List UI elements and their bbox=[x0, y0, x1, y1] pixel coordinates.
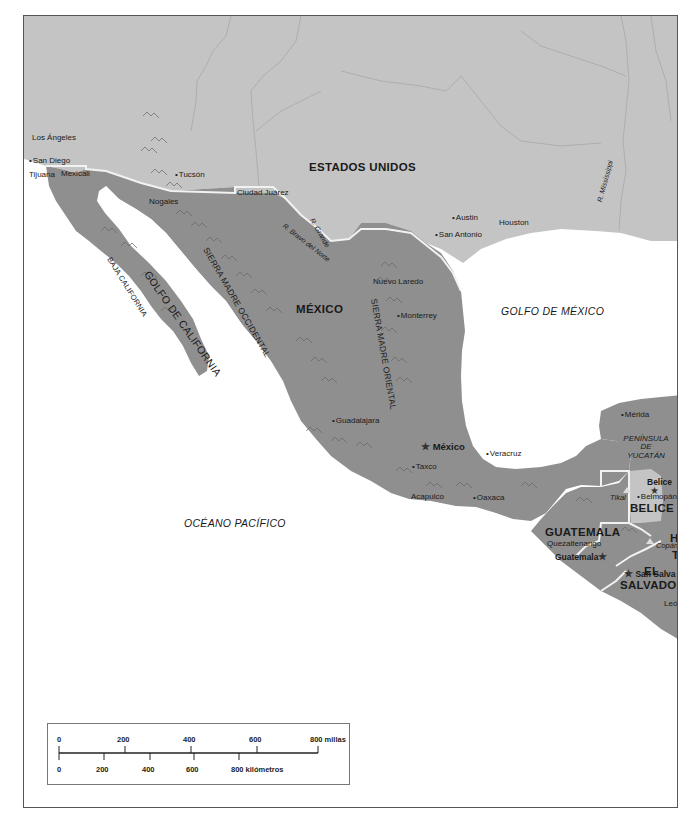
label-veracruz: Veracruz bbox=[486, 450, 521, 458]
capital-san-salvador-text: San Salva bbox=[635, 569, 675, 579]
label-leon-partial: Leó bbox=[664, 600, 677, 608]
label-gulf-mexico: GOLFO DE MÉXICO bbox=[501, 306, 604, 317]
map-canvas bbox=[24, 16, 678, 808]
scale-miles-end: 800 millas bbox=[310, 735, 346, 744]
label-capital-mexico: ★ México bbox=[421, 442, 465, 452]
label-belize: BELICE bbox=[630, 503, 674, 515]
capital-star-icon: ★ bbox=[421, 441, 430, 452]
label-san-diego: San Diego bbox=[29, 157, 70, 165]
label-austin: Austin bbox=[452, 214, 478, 222]
scale-miles-600: 600 bbox=[249, 735, 262, 744]
label-tikal: Tikal bbox=[610, 494, 626, 502]
label-copan: Copán bbox=[656, 542, 678, 550]
label-tucson: Tucsón bbox=[175, 171, 205, 179]
capital-mexico-text: México bbox=[433, 441, 465, 452]
label-san-antonio: San Antonio bbox=[435, 231, 482, 239]
label-pacific: OCÉANO PACÍFICO bbox=[184, 518, 286, 529]
label-quetzaltenango: Quezaltenango bbox=[547, 540, 601, 548]
scale-miles-0: 0 bbox=[57, 735, 61, 744]
label-tijuana: Tijuana bbox=[29, 171, 55, 179]
capital-star-icon: ★ bbox=[624, 568, 633, 579]
scale-miles-400: 400 bbox=[183, 735, 196, 744]
scale-km-end: 800 kilómetros bbox=[231, 765, 284, 774]
label-houston: Houston bbox=[499, 219, 529, 227]
label-guadalajara: Guadalajara bbox=[332, 417, 379, 425]
capital-star-icon: ★ bbox=[598, 551, 607, 562]
label-nuevo-laredo: Nuevo Laredo bbox=[373, 278, 423, 286]
label-los-angeles: Los Ángeles bbox=[32, 134, 76, 142]
label-honduras-partial-2: T bbox=[672, 550, 678, 562]
label-oaxaca: Oaxaca bbox=[473, 494, 504, 502]
label-yucatan: PENÍNSULA DE YUCATÁN bbox=[621, 435, 671, 460]
scale-bar: 0 200 400 600 800 millas 0 200 400 600 8… bbox=[47, 723, 350, 785]
scale-km-0: 0 bbox=[57, 765, 61, 774]
label-taxco: Taxco bbox=[412, 463, 437, 471]
scale-km-600: 600 bbox=[186, 765, 199, 774]
label-guatemala: GUATEMALA bbox=[545, 527, 620, 539]
map-frame: ESTADOS UNIDOS MÉXICO GUATEMALA BELICE E… bbox=[23, 15, 678, 808]
label-mexico: MÉXICO bbox=[296, 304, 343, 316]
label-ciudad-juarez: Ciudad Juárez bbox=[237, 189, 289, 197]
label-el-salvador-2: SALVADOR bbox=[620, 580, 678, 592]
label-usa: ESTADOS UNIDOS bbox=[309, 162, 416, 174]
label-capital-guatemala: Guatemala★ bbox=[555, 552, 607, 562]
scale-km-200: 200 bbox=[96, 765, 109, 774]
label-merida: Mérida bbox=[621, 411, 649, 419]
scale-km-400: 400 bbox=[142, 765, 155, 774]
label-mexicali: Mexicali bbox=[61, 170, 90, 178]
label-monterrey: Monterrey bbox=[397, 312, 437, 320]
label-nogales: Nogales bbox=[149, 198, 178, 206]
scale-bar-graphic bbox=[48, 724, 351, 786]
scale-miles-200: 200 bbox=[117, 735, 130, 744]
label-acapulco: Acapulco bbox=[411, 493, 444, 501]
label-capital-san-salvador: ★ San Salva bbox=[624, 569, 676, 579]
label-yucatan-line-3: YUCATÁN bbox=[621, 452, 671, 460]
capital-star-icon: ★ bbox=[650, 486, 659, 496]
capital-guatemala-text: Guatemala bbox=[555, 552, 598, 562]
